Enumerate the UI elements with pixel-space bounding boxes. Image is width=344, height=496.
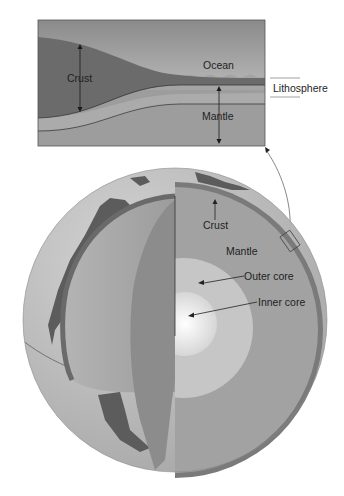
globe-outer-core-label: Outer core	[244, 270, 294, 282]
globe	[22, 168, 327, 490]
inset-ocean-label: Ocean	[203, 59, 234, 71]
inset-mantle-label: Mantle	[202, 110, 234, 122]
lithosphere-label: Lithosphere	[273, 82, 328, 94]
globe-crust-label: Crust	[203, 219, 228, 231]
globe-mantle-label: Mantle	[226, 245, 258, 257]
globe-inner-core-label: Inner core	[258, 296, 305, 308]
earth-structure-diagram: Crust Ocean Mantle Lithosphere	[0, 0, 344, 496]
inset-crust-label: Crust	[67, 72, 92, 84]
